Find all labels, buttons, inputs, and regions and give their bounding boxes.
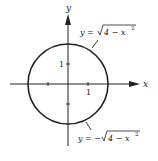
y-tick-label: 1 — [59, 60, 64, 69]
upper-label-root: 4 − x — [103, 28, 126, 37]
upper-curve-label: y = 4 − x 2 — [79, 25, 136, 37]
lower-curve-label: y = − 4 − x 2 — [77, 131, 140, 143]
y-axis-label: y — [65, 3, 72, 13]
upper-label-exp: 2 — [131, 25, 135, 31]
x-axis-arrow-icon — [129, 81, 140, 87]
lower-label-exp: 2 — [135, 131, 139, 137]
lower-label-lhs: y = − — [77, 134, 101, 143]
x-tick-label: 1 — [86, 88, 91, 97]
lower-label-root: 4 − x — [107, 134, 130, 143]
circle-diagram: y x 1 1 y = 4 − x 2 y = − 4 − x 2 — [0, 0, 158, 161]
lower-leader-line — [86, 122, 91, 130]
y-axis-arrow-icon — [65, 14, 71, 25]
x-axis-label: x — [143, 79, 148, 89]
upper-leader-line — [92, 40, 98, 48]
diagram-canvas: y x 1 1 y = 4 − x 2 y = − 4 − x 2 — [0, 0, 158, 161]
upper-label-lhs: y = — [79, 28, 94, 37]
